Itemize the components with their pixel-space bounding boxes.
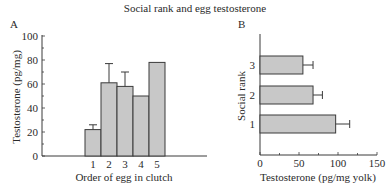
y-tick-label-b: 2 <box>250 89 256 101</box>
x-axis-title-b: Testosterone (pg/mg yolk) <box>260 171 376 184</box>
bar-a <box>85 130 101 156</box>
y-tick-label-a: 100 <box>22 30 39 42</box>
x-tick-label-a: 3 <box>122 158 128 170</box>
bar-a <box>149 62 165 156</box>
bar-b <box>260 115 336 133</box>
y-tick-label-b: 1 <box>250 118 256 130</box>
x-tick-label-b: 150 <box>369 157 386 169</box>
y-axis-title-b: Social rank <box>235 71 247 121</box>
y-tick-label-a: 0 <box>33 150 39 162</box>
x-axis-title-a: Order of egg in clutch <box>75 171 173 183</box>
bar-b <box>260 86 313 104</box>
bar-a <box>117 86 133 156</box>
x-tick-label-b: 100 <box>330 157 347 169</box>
x-tick-label-b: 50 <box>294 157 306 169</box>
x-tick-label-a: 2 <box>106 158 112 170</box>
x-tick-label-a: 4 <box>138 158 144 170</box>
y-axis-title-a: Testosterone (pg/mg) <box>10 50 23 144</box>
chart-canvas: 02040608010012345Order of egg in clutchT… <box>0 0 390 191</box>
y-tick-label-a: 20 <box>27 126 39 138</box>
bar-b <box>260 56 303 74</box>
y-tick-label-b: 3 <box>250 59 256 71</box>
bar-a <box>133 96 149 156</box>
bar-a <box>101 83 117 156</box>
y-tick-label-a: 40 <box>27 102 39 114</box>
x-tick-label-b: 0 <box>257 157 263 169</box>
y-tick-label-a: 60 <box>27 78 39 90</box>
x-tick-label-a: 1 <box>90 158 96 170</box>
x-tick-label-a: 5 <box>154 158 160 170</box>
y-tick-label-a: 80 <box>27 54 39 66</box>
